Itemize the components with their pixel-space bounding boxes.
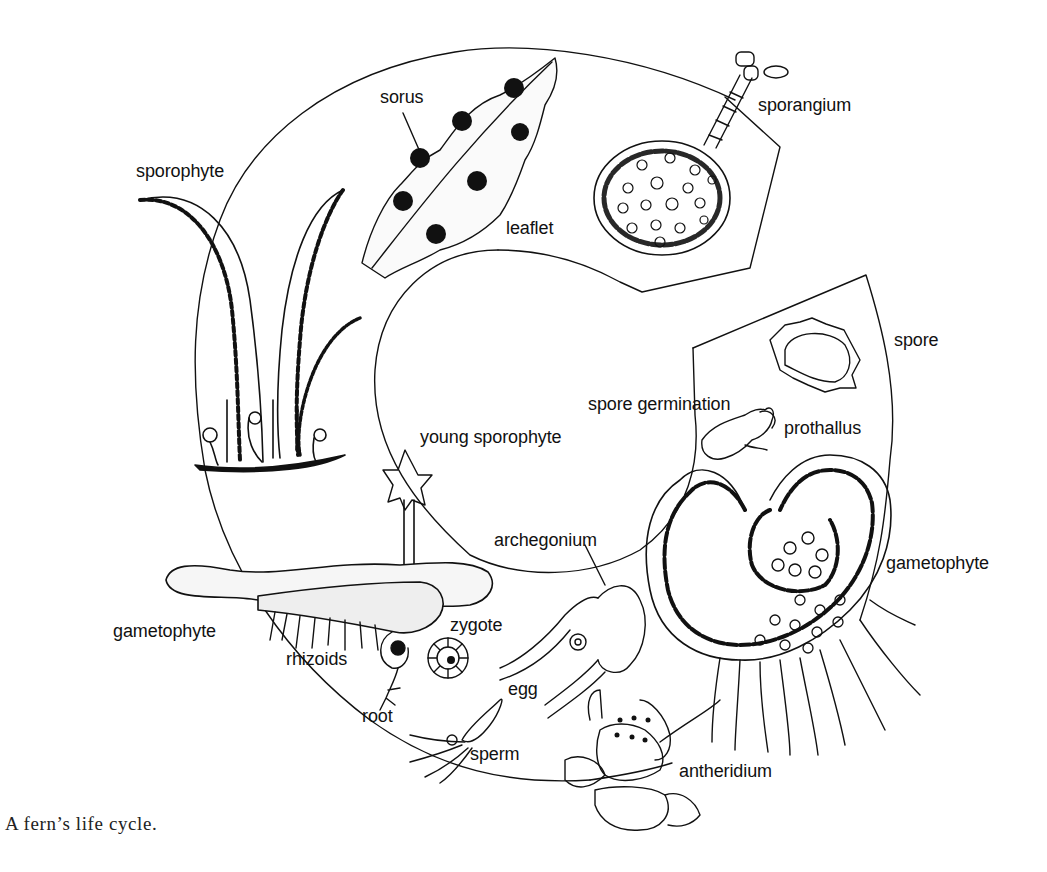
sporangium [594, 52, 788, 255]
fern-life-cycle-figure: sporophyte sorus leaflet sporangium spor… [0, 0, 1047, 872]
zygote [428, 638, 468, 678]
label-spore: spore [894, 331, 939, 349]
label-archegonium: archegonium [494, 531, 597, 549]
label-gametophyte-right: gametophyte [886, 554, 989, 572]
label-zygote: zygote [450, 616, 502, 634]
label-sorus: sorus [380, 88, 424, 106]
label-rhizoids: rhizoids [286, 650, 347, 668]
label-antheridium: antheridium [679, 762, 772, 780]
label-sporangium: sporangium [758, 96, 851, 114]
sperm [410, 699, 502, 783]
label-spore-germination: spore germination [588, 395, 730, 413]
spore [770, 318, 860, 392]
gametophyte-heart [646, 455, 920, 755]
label-gametophyte-left: gametophyte [113, 622, 216, 640]
label-sporophyte: sporophyte [136, 162, 224, 180]
label-root: root [362, 707, 393, 725]
label-leaflet: leaflet [506, 219, 553, 237]
label-egg: egg [508, 680, 538, 698]
figure-caption: A fern’s life cycle. [5, 813, 157, 835]
young-sporophyte [383, 450, 432, 578]
sporophyte-fern [140, 190, 360, 472]
prothallus [702, 408, 775, 459]
label-prothallus: prothallus [784, 419, 861, 437]
label-sperm: sperm [470, 745, 520, 763]
label-young-sporophyte: young sporophyte [420, 428, 562, 446]
